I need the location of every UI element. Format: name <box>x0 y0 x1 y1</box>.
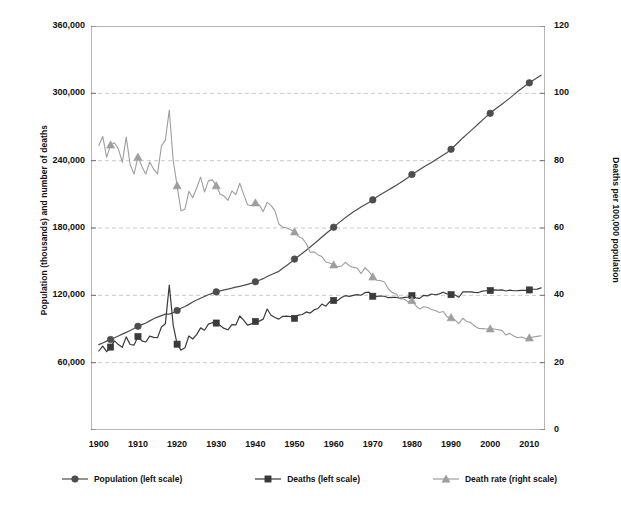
y-axis-right-title: Deaths per 100,000 population <box>611 90 621 350</box>
data-point-marker <box>291 315 297 321</box>
data-point-marker <box>107 344 113 350</box>
y-axis-left-title: Population (thousands) and number of dea… <box>39 90 49 350</box>
data-point-marker <box>174 307 181 314</box>
data-point-marker <box>409 171 416 178</box>
y-axis-right-tick-label: 100 <box>554 87 569 97</box>
x-axis-tick-label: 2010 <box>505 439 553 449</box>
data-point-marker <box>526 287 532 293</box>
data-point-marker <box>251 199 259 206</box>
series-line-triangle <box>99 110 541 338</box>
data-point-marker <box>369 273 377 280</box>
y-axis-left-tick-label: 300,000 <box>6 87 85 97</box>
y-axis-right-tick-label: 120 <box>554 20 569 30</box>
data-point-marker <box>135 333 141 339</box>
data-point-marker <box>265 476 271 482</box>
chart-legend: Population (left scale)Deaths (left scal… <box>0 474 618 484</box>
legend-marker-circle-icon <box>61 474 89 484</box>
data-point-marker <box>448 146 455 153</box>
data-point-marker <box>291 228 299 235</box>
series-line-square <box>99 285 541 352</box>
y-axis-left-tick-label: 360,000 <box>6 20 85 30</box>
y-axis-right-tick-label: 40 <box>554 289 564 299</box>
data-point-marker <box>174 341 180 347</box>
data-point-marker <box>72 476 79 483</box>
legend-marker-square-icon <box>254 474 282 484</box>
legend-label: Death rate (right scale) <box>465 474 557 484</box>
legend-item[interactable]: Population (left scale) <box>61 474 182 484</box>
data-point-marker <box>291 256 298 263</box>
data-point-marker <box>448 292 454 298</box>
y-axis-left-tick-label: 240,000 <box>6 155 85 165</box>
data-point-marker <box>134 153 142 160</box>
y-axis-left-tick-label: 180,000 <box>6 222 85 232</box>
data-point-marker <box>487 110 494 117</box>
legend-marker-triangle-icon <box>432 474 460 484</box>
y-axis-right-tick-label: 0 <box>554 424 559 434</box>
plot-area <box>91 26 545 430</box>
data-point-marker <box>173 182 181 189</box>
data-point-marker <box>107 141 115 148</box>
legend-label: Deaths (left scale) <box>287 474 360 484</box>
y-axis-left-tick-label: 120,000 <box>6 289 85 299</box>
legend-label: Population (left scale) <box>94 474 182 484</box>
y-axis-right-tick-label: 80 <box>554 155 564 165</box>
data-point-marker <box>331 297 337 303</box>
data-point-marker <box>213 289 220 296</box>
data-point-marker <box>252 278 259 285</box>
data-point-marker <box>135 323 142 330</box>
data-point-marker <box>107 336 114 343</box>
data-point-marker <box>213 320 219 326</box>
data-point-marker <box>252 318 258 324</box>
series-line-circle <box>99 75 541 344</box>
data-point-marker <box>487 287 493 293</box>
legend-item[interactable]: Death rate (right scale) <box>432 474 557 484</box>
data-point-marker <box>330 261 338 268</box>
legend-item[interactable]: Deaths (left scale) <box>254 474 360 484</box>
data-point-marker <box>330 224 337 231</box>
data-point-marker <box>486 325 494 332</box>
chart-canvas <box>91 26 545 430</box>
data-point-marker <box>526 80 533 87</box>
data-point-marker <box>212 182 220 189</box>
y-axis-right-tick-label: 20 <box>554 357 564 367</box>
y-axis-left-tick-label: 60,000 <box>6 357 85 367</box>
data-point-marker <box>369 197 376 204</box>
y-axis-right-tick-label: 60 <box>554 222 564 232</box>
data-point-marker <box>370 293 376 299</box>
